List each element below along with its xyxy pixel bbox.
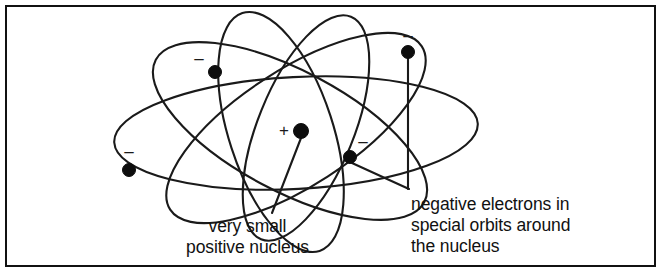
electron-right-inner-dot	[344, 151, 357, 164]
leader-nucleus	[272, 138, 301, 213]
atom-diagram-figure: + – – – – very small positive nucleus ne…	[0, 0, 661, 280]
nucleus-dot	[294, 124, 309, 139]
electron-top-right-minus-sign: –	[403, 26, 413, 45]
electron-upper-left-dot	[209, 66, 222, 79]
electron-left-dot	[123, 164, 136, 177]
nucleus-caption: very small positive nucleus	[186, 216, 309, 258]
electron-upper-left-minus-sign: –	[194, 49, 204, 68]
nucleus-group: +	[279, 121, 308, 140]
nucleus-plus-sign: +	[279, 121, 289, 140]
electron-right-inner-minus-sign: –	[358, 132, 368, 151]
electrons-caption: negative electrons in special orbits aro…	[411, 194, 570, 257]
electron-left-minus-sign: –	[124, 142, 134, 161]
electron-top-right-dot	[402, 46, 415, 59]
leader-electron-diagonal	[352, 163, 409, 189]
